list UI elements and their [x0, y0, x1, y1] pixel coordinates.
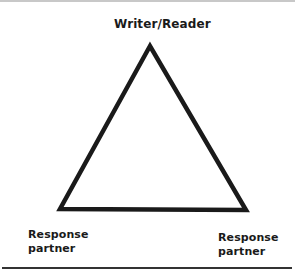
bottom-left-label-line2: partner: [28, 242, 89, 256]
bottom-divider: [2, 267, 292, 269]
bottom-right-label-response-partner: Response partner: [218, 231, 279, 259]
bottom-left-label-response-partner: Response partner: [28, 228, 89, 256]
bottom-right-label-line2: partner: [218, 245, 279, 259]
bottom-left-label-line1: Response: [28, 228, 89, 242]
bottom-right-label-line1: Response: [218, 231, 279, 245]
triangle-shape: [60, 46, 246, 210]
